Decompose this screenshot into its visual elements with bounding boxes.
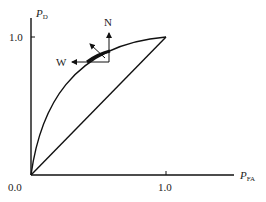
north-label: N bbox=[104, 17, 112, 28]
roc-diagram bbox=[0, 0, 266, 202]
x-tick-label: 1.0 bbox=[158, 182, 172, 193]
origin-label: 0.0 bbox=[8, 182, 22, 193]
west-label: W bbox=[56, 57, 66, 68]
y-axis-label: PD bbox=[36, 8, 48, 21]
roc-curve-highlight bbox=[87, 51, 110, 62]
x-axis-label: PFA bbox=[240, 170, 255, 183]
y-tick-label: 1.0 bbox=[9, 32, 23, 43]
